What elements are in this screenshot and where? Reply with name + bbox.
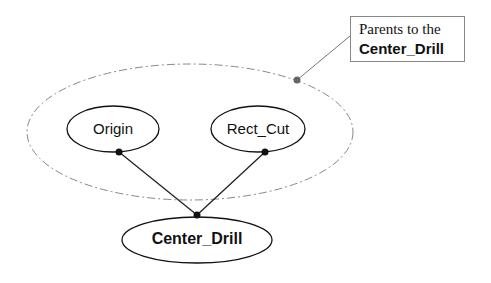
diagram-canvas: Origin Rect_Cut Center_Drill Parents to … — [0, 0, 491, 283]
callout-anchor-dot — [294, 77, 301, 84]
callout-leader-line — [297, 36, 350, 80]
rect-cut-label: Rect_Cut — [211, 120, 305, 137]
center-drill-label: Center_Drill — [122, 230, 272, 248]
rect-cut-port-dot — [262, 149, 269, 156]
edge-rect-cut-center-drill — [197, 152, 265, 215]
origin-label: Origin — [67, 120, 159, 137]
origin-port-dot — [116, 149, 123, 156]
callout-box: Parents to the Center_Drill — [350, 16, 465, 62]
edge-origin-center-drill — [119, 152, 197, 215]
center-drill-port-dot — [194, 212, 201, 219]
callout-text-line1: Parents to the — [359, 20, 464, 39]
callout-text-line2: Center_Drill — [359, 39, 464, 58]
